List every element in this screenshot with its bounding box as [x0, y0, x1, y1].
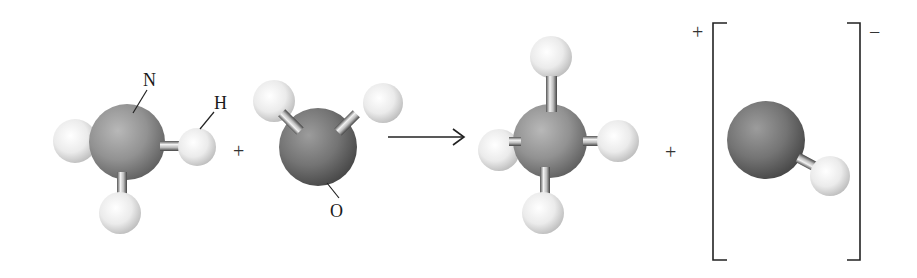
plus-sign-reactants: + — [233, 141, 244, 161]
bond — [546, 82, 557, 112]
bond — [509, 137, 521, 146]
plus-sign-products: + — [665, 142, 676, 162]
hydrogen-atom — [522, 192, 564, 234]
water-molecule — [253, 80, 403, 198]
h-label-leader — [200, 112, 214, 129]
nitrogen-label: N — [143, 71, 156, 89]
hydrogen-atom — [530, 36, 572, 78]
hydrogen-atom — [178, 128, 216, 166]
hydrogen-atom — [363, 83, 403, 123]
hydrogen-atom — [810, 156, 850, 196]
reaction-arrow — [388, 129, 464, 145]
o-label-leader — [327, 183, 339, 198]
nitrogen-atom — [513, 104, 587, 178]
bond — [540, 167, 550, 195]
reaction-diagram — [0, 0, 917, 278]
ammonium-ion — [478, 36, 639, 234]
hydroxide-ion — [727, 101, 850, 196]
hydrogen-label: H — [214, 94, 227, 112]
ammonium-charge: + — [692, 22, 703, 42]
ammonia-molecule — [53, 90, 216, 234]
oxygen-atom — [727, 101, 805, 179]
hydroxide-charge: − — [869, 22, 880, 42]
hydrogen-atom — [597, 120, 639, 162]
oxygen-label: O — [330, 202, 343, 220]
nitrogen-atom — [89, 104, 165, 180]
hydrogen-atom — [99, 192, 141, 234]
